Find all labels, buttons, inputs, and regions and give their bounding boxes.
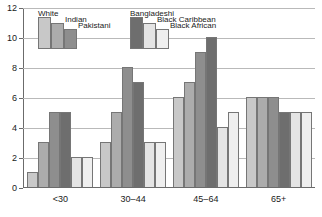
y-tick-label: 8: [12, 63, 17, 73]
legend-item: Black African: [156, 29, 169, 49]
y-tick-mark: [19, 188, 23, 189]
y-tick-mark: [19, 38, 23, 39]
bar-group: 45–64: [170, 8, 243, 187]
legend-swatch: [143, 23, 156, 49]
bar: [184, 82, 195, 187]
bar: [301, 112, 312, 187]
bar-group: 65+: [242, 8, 315, 187]
y-tick-label: 6: [12, 93, 17, 103]
y-tick-label: 2: [12, 153, 17, 163]
legend-swatch: [51, 23, 64, 49]
y-tick-mark: [19, 8, 23, 9]
bar: [217, 127, 228, 187]
x-tick-label: <30: [53, 194, 68, 204]
legend-swatch: [130, 17, 143, 49]
legend-group-a: WhiteIndianPakistani: [38, 17, 77, 49]
legend-label: Pakistani: [78, 21, 110, 30]
bar: [100, 142, 111, 187]
bar: [38, 142, 49, 187]
bar: [155, 142, 166, 187]
bar: [27, 172, 38, 187]
y-tick-mark: [19, 98, 23, 99]
bar: [173, 97, 184, 187]
legend-item: White: [38, 17, 51, 49]
bar: [60, 112, 71, 187]
bar: [279, 112, 290, 187]
legend-label: White: [38, 9, 58, 18]
bar: [206, 37, 217, 187]
bar: [257, 97, 268, 187]
bar: [133, 82, 144, 187]
bar: [195, 52, 206, 187]
y-tick-label: 0: [12, 183, 17, 193]
bar: [246, 97, 257, 187]
y-tick-mark: [19, 128, 23, 129]
x-tick-label: 45–64: [193, 194, 218, 204]
legend-swatch: [64, 29, 77, 49]
bar: [122, 67, 133, 187]
y-tick-label: 12: [7, 3, 17, 13]
bar-chart: 024681012 <3030–4445–6465+ WhiteIndianPa…: [0, 0, 322, 217]
bar: [82, 157, 93, 187]
legend-item: Pakistani: [64, 29, 77, 49]
y-tick-mark: [19, 158, 23, 159]
legend-item: Indian: [51, 23, 64, 49]
x-axis-line: [23, 187, 315, 188]
bar: [111, 112, 122, 187]
legend-label: Black African: [170, 21, 216, 30]
bar: [268, 97, 279, 187]
legend-item: Black Caribbean: [143, 23, 156, 49]
bar: [228, 112, 239, 187]
bar: [144, 142, 155, 187]
legend-group-b: BangladeshiBlack CaribbeanBlack African: [130, 17, 169, 49]
bar: [71, 157, 82, 187]
x-tick-label: 65+: [271, 194, 286, 204]
y-tick-mark: [19, 68, 23, 69]
y-tick-label: 4: [12, 123, 17, 133]
bar: [49, 112, 60, 187]
y-tick-label: 10: [7, 33, 17, 43]
legend-item: Bangladeshi: [130, 17, 143, 49]
x-tick-label: 30–44: [121, 194, 146, 204]
legend-swatch: [38, 17, 51, 49]
legend-swatch: [156, 29, 169, 49]
bar: [290, 112, 301, 187]
